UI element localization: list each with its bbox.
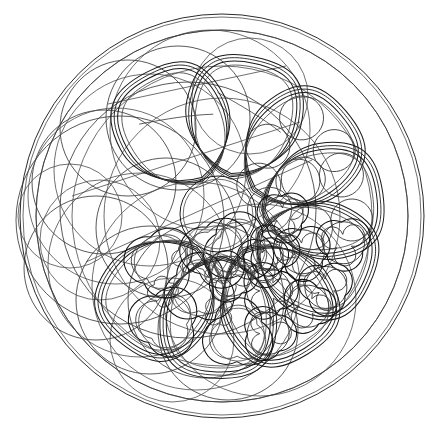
drawing-canvas [0, 0, 448, 434]
rose-window-drawing [0, 0, 448, 434]
